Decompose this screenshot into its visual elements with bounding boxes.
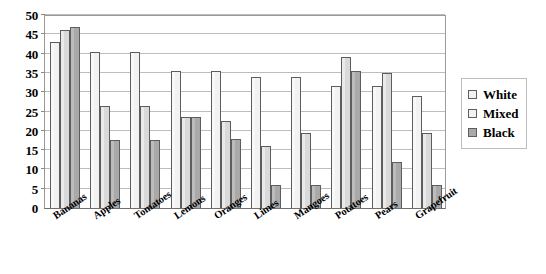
y-tick-label: 5	[2, 182, 38, 195]
y-tick-label: 25	[2, 105, 38, 118]
y-axis: 50454035302520151050	[0, 14, 38, 210]
bar	[70, 27, 80, 208]
gridline	[45, 14, 445, 15]
legend-item: Black	[468, 123, 518, 142]
y-tickmark	[41, 14, 45, 15]
bar	[422, 133, 432, 208]
y-tick-label: 35	[2, 66, 38, 79]
bar	[130, 52, 140, 208]
legend-swatch-icon	[468, 128, 477, 137]
bar-group	[85, 16, 125, 208]
y-tick-label: 0	[2, 202, 38, 215]
y-tick-label: 40	[2, 47, 38, 60]
bar	[221, 121, 231, 208]
legend-swatch-icon	[468, 109, 477, 118]
bar	[382, 73, 392, 208]
y-tick-label: 30	[2, 86, 38, 99]
bar-group	[326, 16, 366, 208]
bar	[291, 77, 301, 208]
bar	[412, 96, 422, 208]
legend-item: White	[468, 85, 518, 104]
plot-area	[44, 15, 446, 209]
y-tick-label: 10	[2, 163, 38, 176]
x-axis-category-labels: BananasApplesTomatoesLemonsOrangesLimesM…	[44, 210, 446, 274]
bar-group	[367, 16, 407, 208]
y-tick-label: 20	[2, 124, 38, 137]
bar	[331, 86, 341, 208]
bar-group	[206, 16, 246, 208]
bar	[301, 133, 311, 208]
bar-group	[125, 16, 165, 208]
bar	[171, 71, 181, 208]
y-tick-label: 15	[2, 144, 38, 157]
legend-label: White	[483, 88, 517, 101]
legend-item: Mixed	[468, 104, 518, 123]
bar	[100, 106, 110, 208]
bar	[351, 71, 361, 208]
y-tick-label: 45	[2, 28, 38, 41]
bar-group	[286, 16, 326, 208]
bar	[372, 86, 382, 208]
bar	[341, 57, 351, 208]
bar-chart: 50454035302520151050 BananasApplesTomato…	[0, 0, 546, 274]
bar-group	[166, 16, 206, 208]
bar	[90, 52, 100, 208]
legend-swatch-icon	[468, 90, 477, 99]
bar-group	[246, 16, 286, 208]
bar-group	[407, 16, 447, 208]
chart-legend: WhiteMixedBlack	[461, 78, 527, 149]
bar	[211, 71, 221, 208]
bar	[251, 77, 261, 208]
y-tick-label: 50	[2, 9, 38, 22]
bar-group	[45, 16, 85, 208]
bar-groups	[45, 16, 445, 208]
bar	[181, 117, 191, 208]
bar	[60, 30, 70, 208]
bar	[50, 42, 60, 208]
legend-label: Black	[483, 126, 515, 139]
bar	[140, 106, 150, 208]
legend-label: Mixed	[483, 107, 518, 120]
